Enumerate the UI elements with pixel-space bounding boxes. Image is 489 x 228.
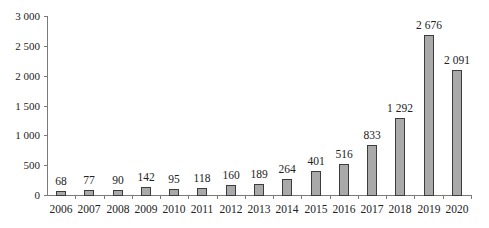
bar-2012 [226, 185, 236, 196]
bar-value-label: 833 [352, 129, 392, 141]
bar-2016 [339, 164, 349, 196]
y-tick-mark [44, 46, 48, 47]
x-tick-label: 2015 [301, 203, 331, 215]
y-tick-label: 1 500 [0, 100, 40, 112]
x-tick-label: 2007 [74, 203, 104, 215]
x-tick-label: 2014 [272, 203, 302, 215]
x-tick-mark [414, 195, 415, 199]
x-tick-mark [358, 195, 359, 199]
y-tick-mark [44, 135, 48, 136]
x-tick-mark [471, 195, 472, 199]
x-tick-label: 2006 [46, 203, 76, 215]
y-tick-mark [44, 16, 48, 17]
y-tick-mark [44, 165, 48, 166]
y-tick-mark [44, 195, 48, 196]
bar-2019 [424, 35, 434, 196]
y-tick-mark [44, 76, 48, 77]
bar-value-label: 2 091 [437, 54, 477, 66]
bar-2006 [56, 191, 66, 196]
x-tick-label: 2017 [357, 203, 387, 215]
x-tick-mark [75, 195, 76, 199]
bar-2020 [452, 70, 462, 196]
x-tick-label: 2011 [187, 203, 217, 215]
bar-2010 [169, 189, 179, 196]
x-tick-label: 2012 [216, 203, 246, 215]
bar-2014 [282, 179, 292, 196]
bar-2009 [141, 187, 151, 196]
bar-2013 [254, 184, 264, 196]
bar-value-label: 516 [324, 148, 364, 160]
bar-2011 [197, 188, 207, 196]
y-tick-label: 2 000 [0, 70, 40, 82]
y-tick-mark [44, 106, 48, 107]
x-tick-mark [104, 195, 105, 199]
x-tick-label: 2020 [442, 203, 472, 215]
x-tick-mark [160, 195, 161, 199]
y-tick-label: 500 [0, 159, 40, 171]
bar-2008 [113, 190, 123, 196]
x-tick-mark [301, 195, 302, 199]
bar-2007 [84, 190, 94, 196]
x-tick-mark [330, 195, 331, 199]
y-tick-label: 3 000 [0, 10, 40, 22]
y-tick-label: 2 500 [0, 40, 40, 52]
bar-2018 [395, 118, 405, 196]
x-tick-label: 2009 [131, 203, 161, 215]
bar-2015 [311, 171, 321, 196]
y-tick-label: 1 000 [0, 129, 40, 141]
bar-2017 [367, 145, 377, 196]
x-tick-label: 2019 [414, 203, 444, 215]
x-tick-label: 2008 [103, 203, 133, 215]
x-tick-mark [188, 195, 189, 199]
bar-value-label: 1 292 [380, 102, 420, 114]
x-tick-mark [245, 195, 246, 199]
y-tick-label: 0 [0, 189, 40, 201]
bar-chart: 05001 0001 5002 0002 5003 000 6877901429… [0, 0, 489, 228]
bar-value-label: 2 676 [409, 19, 449, 31]
x-tick-mark [273, 195, 274, 199]
x-tick-mark [443, 195, 444, 199]
x-tick-mark [217, 195, 218, 199]
x-tick-label: 2013 [244, 203, 274, 215]
x-tick-label: 2016 [329, 203, 359, 215]
x-tick-label: 2018 [385, 203, 415, 215]
x-tick-mark [386, 195, 387, 199]
x-tick-label: 2010 [159, 203, 189, 215]
x-tick-mark [132, 195, 133, 199]
